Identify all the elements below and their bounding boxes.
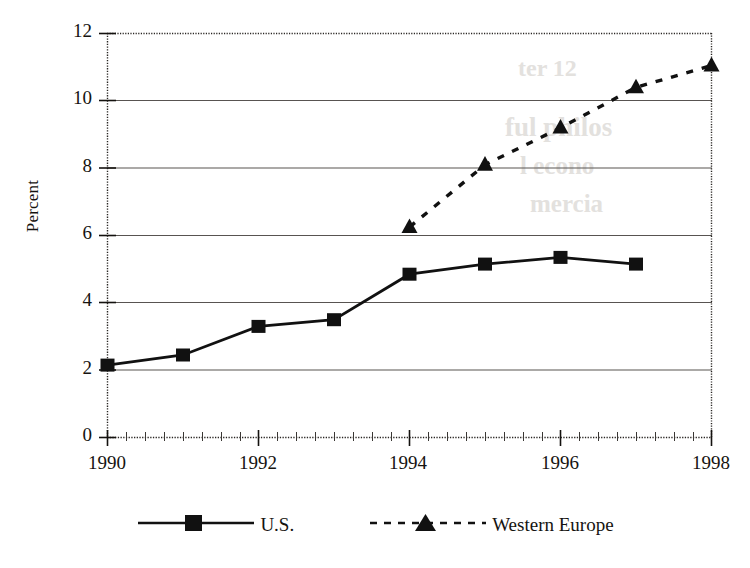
legend-label-western-europe: Western Europe (492, 515, 613, 534)
data-point-square (327, 313, 341, 326)
gridlines (107, 101, 712, 371)
data-point-triangle (553, 119, 569, 134)
data-series-layer (101, 57, 720, 372)
data-point-triangle (402, 218, 418, 233)
chart-legend: U.S. Western Europe (0, 512, 750, 534)
legend-label-us: U.S. (260, 515, 294, 534)
legend-item-us[interactable]: U.S. (136, 512, 294, 534)
legend-item-western-europe[interactable]: Western Europe (368, 512, 613, 534)
data-point-square (101, 359, 115, 372)
series-western-europe (402, 57, 720, 233)
data-point-square (176, 349, 190, 362)
data-point-square (478, 258, 492, 271)
legend-key-triangle-dashed (368, 512, 488, 534)
legend-key-square-line (136, 512, 256, 534)
data-point-triangle (704, 57, 720, 72)
chart-figure: ful philos l econo mercia ter 12 Percent… (0, 0, 750, 568)
data-point-triangle (477, 156, 493, 171)
data-point-square (629, 258, 643, 271)
data-point-square (554, 251, 568, 264)
data-point-square (252, 320, 266, 333)
series-u-s (101, 251, 644, 372)
data-point-square (403, 268, 417, 281)
series-line (410, 66, 712, 228)
plot-area (0, 0, 750, 568)
